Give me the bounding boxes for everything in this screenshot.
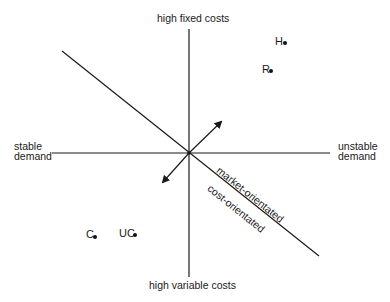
point-r-dot <box>269 69 273 73</box>
diagram-canvas <box>0 0 390 302</box>
right-axis-label-line2: demand <box>338 151 376 162</box>
point-h-dot <box>283 41 287 45</box>
top-axis-label: high fixed costs <box>157 13 229 24</box>
bottom-axis-label: high variable costs <box>149 280 236 291</box>
arrow-up-right <box>189 122 221 153</box>
arrow-down-left <box>163 153 189 182</box>
point-h-label: H <box>275 36 283 47</box>
left-axis-label-line2: demand <box>14 151 52 162</box>
point-uc-dot <box>133 233 137 237</box>
point-c-dot <box>93 235 97 239</box>
origin-dot <box>187 151 191 155</box>
